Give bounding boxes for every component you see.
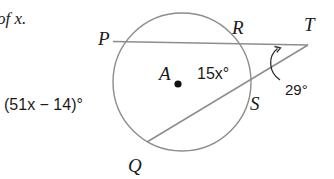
canvas-background (0, 0, 334, 179)
point-label-P: P (97, 28, 110, 49)
prompt-text: of x. (0, 9, 26, 28)
point-label-Q: Q (128, 155, 142, 176)
center-label-A: A (157, 63, 171, 84)
angle-measure-label-T: 29° (285, 81, 308, 98)
point-label-R: R (231, 17, 244, 38)
circle-diagram-svg: of x. P R T S Q A (51x − 14)° 15x° 29° (0, 0, 334, 179)
point-label-T: T (304, 14, 316, 35)
center-point-dot (174, 80, 181, 87)
arc-measure-label-PQ: (51x − 14)° (4, 96, 83, 113)
arc-measure-label-RS: 15x° (197, 65, 229, 82)
point-label-S: S (250, 93, 260, 114)
geometry-problem-figure: of x. P R T S Q A (51x − 14)° 15x° 29° (0, 0, 334, 179)
